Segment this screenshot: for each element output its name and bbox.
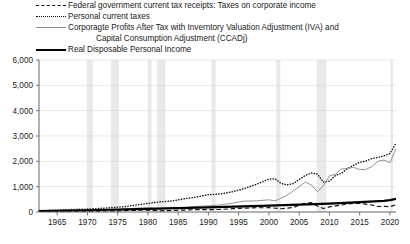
legend-item-corporate-profits: Corporagte Profits After Tax with Invern… — [0, 22, 410, 33]
xtick-label-1985: 1985 — [169, 218, 188, 227]
legend-label-personal-current-taxes: Personal current taxes — [66, 11, 150, 22]
ytick-label-6000: 6,000 — [13, 56, 34, 65]
xtick-label-2000: 2000 — [260, 218, 279, 227]
legend-label-corporate-profits: Corporagte Profits After Tax with Invern… — [66, 22, 339, 33]
ytick-label-4000: 4,000 — [13, 107, 34, 116]
legend-swatch-dotted-icon — [36, 11, 66, 22]
xtick-label-2010: 2010 — [320, 218, 339, 227]
xtick-label-1970: 1970 — [78, 218, 97, 227]
line-chart: 01,0002,0003,0004,0005,0006,000196519701… — [0, 52, 410, 244]
legend-label-corporate-profits-continued: Capital Consumption Adjustment (CCADj) — [96, 33, 410, 44]
chart-plot-area: 01,0002,0003,0004,0005,0006,000196519701… — [0, 52, 410, 244]
legend-item-corporate-tax-receipts: Federal government current tax receipts:… — [0, 0, 410, 11]
legend-item-personal-current-taxes: Personal current taxes — [0, 11, 410, 22]
xtick-label-1965: 1965 — [48, 218, 67, 227]
ytick-label-1000: 1,000 — [13, 183, 34, 192]
chart-legend: Federal government current tax receipts:… — [0, 0, 410, 55]
xtick-label-2005: 2005 — [290, 218, 309, 227]
ytick-label-3000: 3,000 — [13, 132, 34, 141]
xtick-label-1990: 1990 — [199, 218, 218, 227]
ytick-label-5000: 5,000 — [13, 81, 34, 90]
legend-label-corporate-tax-receipts: Federal government current tax receipts:… — [66, 0, 316, 11]
xtick-label-2015: 2015 — [351, 218, 370, 227]
chart-page: Federal government current tax receipts:… — [0, 0, 410, 244]
legend-swatch-solid-thin-icon — [36, 22, 66, 33]
ytick-label-2000: 2,000 — [13, 157, 34, 166]
xtick-label-1980: 1980 — [139, 218, 158, 227]
xtick-label-1995: 1995 — [230, 218, 249, 227]
legend-swatch-dashed-icon — [36, 0, 66, 11]
ytick-label-0: 0 — [28, 208, 33, 217]
xtick-label-2020: 2020 — [381, 218, 400, 227]
xtick-label-1975: 1975 — [109, 218, 128, 227]
